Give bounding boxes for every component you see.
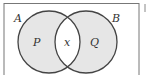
venn-diagram: A B P x Q bbox=[0, 0, 147, 75]
set-a-label: A bbox=[13, 12, 22, 25]
region-p-label: P bbox=[32, 36, 41, 49]
set-b-label: B bbox=[111, 12, 120, 25]
intersection-label: x bbox=[64, 36, 71, 49]
region-q-label: Q bbox=[90, 36, 99, 49]
